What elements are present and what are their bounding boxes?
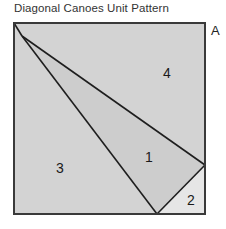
pattern-diagram: 4 1 3 2 (0, 0, 226, 229)
piece-label-4: 4 (163, 65, 171, 81)
piece-label-2: 2 (187, 192, 195, 208)
piece-label-1: 1 (145, 149, 153, 165)
piece-label-3: 3 (56, 160, 64, 176)
